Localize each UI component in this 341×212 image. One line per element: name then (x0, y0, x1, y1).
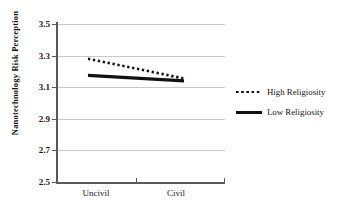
y-tick-mark-3-5 (52, 24, 57, 25)
y-tick-mark-2-7 (52, 150, 57, 151)
legend-label-low-religiosity: Low Religiosity (267, 107, 324, 117)
x-axis-line (57, 182, 225, 184)
y-tick-label-3-1: 3.1 (20, 82, 50, 92)
x-tick-mark-right (224, 178, 225, 183)
y-tick-mark-2-9 (52, 119, 57, 120)
legend-item-low-religiosity: Low Religiosity (236, 102, 340, 122)
x-tick-label-uncivil: Uncivil (61, 188, 131, 198)
y-tick-label-2-5: 2.5 (20, 177, 50, 187)
y-tick-label-2-9: 2.9 (20, 114, 50, 124)
legend-label-high-religiosity: High Religiosity (267, 87, 325, 97)
gridline-2-7 (57, 150, 225, 151)
y-axis-line (56, 22, 58, 184)
chart-legend: High Religiosity Low Religiosity (236, 82, 340, 122)
solid-line-key (236, 107, 262, 117)
y-tick-label-3-5: 3.5 (20, 19, 50, 29)
y-tick-label-3-3: 3.3 (20, 51, 50, 61)
y-tick-label-2-7: 2.7 (20, 145, 50, 155)
gridline-3-1 (57, 87, 225, 88)
gridline-2-9 (57, 119, 225, 120)
gridline-3-5 (57, 24, 225, 25)
gridline-3-3 (57, 56, 225, 57)
y-tick-mark-2-5 (52, 182, 57, 183)
x-tick-mark-center (136, 178, 137, 183)
dotted-line-key (236, 87, 262, 97)
legend-item-high-religiosity: High Religiosity (236, 82, 340, 102)
y-tick-mark-3-3 (52, 56, 57, 57)
chart-container: Nanotechnology Risk Perception 3.5 3.3 3… (0, 0, 341, 212)
y-tick-mark-3-1 (52, 87, 57, 88)
x-tick-label-civil: Civil (141, 188, 211, 198)
plot-area (57, 24, 225, 182)
